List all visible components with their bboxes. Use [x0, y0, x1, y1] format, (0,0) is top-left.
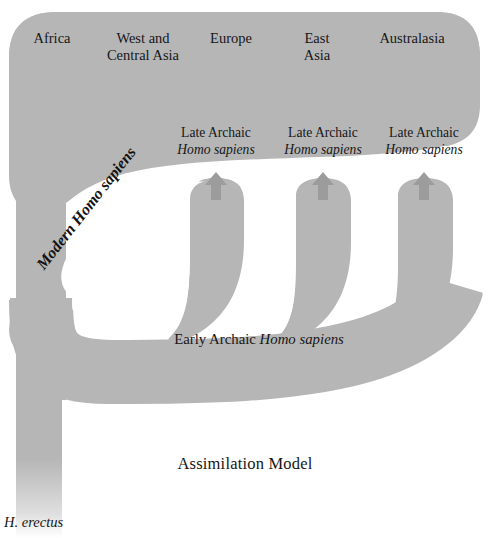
region-europe-line1: Europe [210, 30, 252, 47]
erectus-label-text: H. erectus [4, 514, 63, 530]
early-archaic-species: Homo sapiens [260, 331, 344, 347]
assimilation-model-figure: Africa West and Central Asia Europe East… [0, 0, 490, 538]
region-label-west-central-asia: West and Central Asia [107, 30, 179, 64]
late-archaic-australasia-species: Homo sapiens [385, 142, 462, 159]
late-archaic-europe-label: Late Archaic Homo sapiens [177, 125, 254, 158]
region-label-europe: Europe [210, 30, 252, 47]
erectus-label: H. erectus [4, 514, 63, 531]
early-archaic-label: Early Archaic Homo sapiens [174, 331, 344, 348]
region-east-asia-line1: East [304, 30, 331, 47]
late-archaic-australasia-line1: Late Archaic [385, 125, 462, 142]
late-archaic-east-asia-label: Late Archaic Homo sapiens [284, 125, 361, 158]
late-archaic-europe-line1: Late Archaic [177, 125, 254, 142]
region-wca-line1: West and [107, 30, 179, 47]
region-east-asia-line2: Asia [304, 47, 331, 64]
region-wca-line2: Central Asia [107, 47, 179, 64]
model-title: Assimilation Model [177, 455, 312, 472]
model-title-text: Assimilation Model [177, 454, 312, 473]
late-archaic-australasia-label: Late Archaic Homo sapiens [385, 125, 462, 158]
region-label-east-asia: East Asia [304, 30, 331, 64]
region-label-australasia: Australasia [379, 30, 444, 47]
late-archaic-europe-species: Homo sapiens [177, 142, 254, 159]
late-archaic-east-asia-species: Homo sapiens [284, 142, 361, 159]
region-australasia-line1: Australasia [379, 30, 444, 47]
region-africa-line1: Africa [33, 30, 70, 47]
late-archaic-east-asia-line1: Late Archaic [284, 125, 361, 142]
early-archaic-prefix: Early Archaic [174, 331, 259, 347]
region-label-africa: Africa [33, 30, 70, 47]
